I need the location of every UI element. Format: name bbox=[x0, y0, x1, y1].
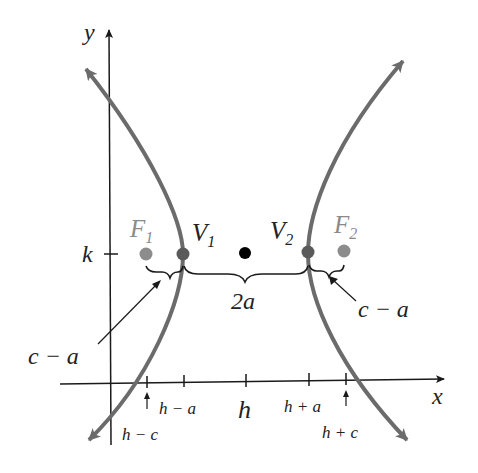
brace-left-gap bbox=[146, 266, 183, 278]
x-tick-label-h-plus-a: h + a bbox=[284, 397, 321, 416]
vertex-point-2 bbox=[302, 246, 315, 259]
x-tick-label-h-minus-a: h − a bbox=[159, 399, 196, 418]
focus-point-2 bbox=[338, 245, 351, 258]
x-axis bbox=[60, 379, 444, 384]
brace-transverse-axis bbox=[184, 266, 308, 282]
x-tick-label-h-plus-c: h + c bbox=[322, 423, 358, 442]
center-point bbox=[239, 247, 251, 259]
c-minus-a-pointers bbox=[98, 276, 356, 344]
focus-label-2: F2 bbox=[333, 211, 357, 242]
focus-label-1: F1 bbox=[129, 215, 153, 246]
left-gap-label: c − a bbox=[28, 343, 79, 369]
transverse-axis-label: 2a bbox=[231, 288, 255, 314]
vertex-label-1: V1 bbox=[192, 219, 215, 250]
focus-point-1 bbox=[140, 248, 153, 261]
k-label: k bbox=[82, 241, 93, 267]
brace-right-gap bbox=[309, 265, 344, 277]
right-gap-label: c − a bbox=[358, 296, 409, 322]
x-tick-label-h-minus-c: h − c bbox=[122, 425, 158, 444]
y-axis-label: y bbox=[82, 19, 95, 45]
hyperbola-right-branch-lower bbox=[308, 254, 407, 440]
vertex-point-1 bbox=[177, 248, 190, 261]
vertex-label-2: V2 bbox=[270, 217, 293, 248]
x-tick-label-h: h bbox=[238, 395, 251, 424]
x-axis-label: x bbox=[431, 383, 443, 409]
hyperbola-diagram: y x k h − c h − a h h + a h + c 2a c − bbox=[0, 0, 478, 473]
